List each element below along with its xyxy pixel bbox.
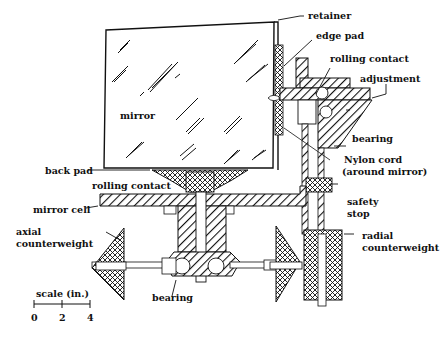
label-radial-counterweight-2: counterweight [362, 242, 439, 253]
scale-tick-2: 2 [59, 312, 66, 323]
scale-title: scale (in.) [36, 288, 89, 299]
label-safety-stop-2: stop [347, 208, 370, 219]
label-adjustment: adjustment [360, 73, 420, 84]
axial-counterweight-right [270, 226, 302, 302]
scale-tick-0: 0 [31, 312, 38, 323]
label-bearing-right: bearing [352, 133, 393, 144]
label-rolling-contact-bottom: rolling contact [92, 180, 171, 191]
label-safety-stop: safety [347, 196, 379, 207]
radial-counterweight [304, 230, 342, 306]
label-retainer: retainer [308, 10, 351, 21]
scale-tick-4: 4 [87, 312, 94, 323]
label-mirror-cell: mirror cell [33, 204, 90, 215]
label-radial-counterweight: radial [362, 230, 393, 241]
scale-bar [34, 300, 90, 308]
axial-counterweight [92, 228, 126, 300]
label-bearing-bottom: bearing [152, 292, 193, 303]
label-edge-pad: edge pad [316, 30, 364, 41]
label-axial-counterweight-2: counterweight [16, 238, 93, 249]
label-nylon-cord-2: (around mirror) [342, 166, 427, 177]
label-mirror: mirror [120, 110, 155, 121]
label-nylon-cord: Nylon cord [344, 154, 402, 165]
label-axial-counterweight: axial [16, 226, 41, 237]
label-rolling-contact-top: rolling contact [330, 53, 409, 64]
mirror-body [104, 22, 274, 168]
label-back-pad: back pad [45, 165, 93, 176]
